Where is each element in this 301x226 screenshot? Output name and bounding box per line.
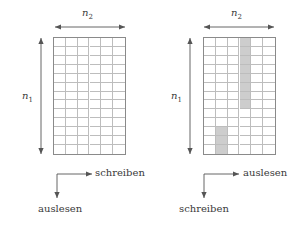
matrix-cell bbox=[204, 100, 216, 109]
matrix-cell bbox=[101, 83, 113, 92]
matrix-cell bbox=[204, 38, 216, 47]
dimension-arrow-n1-right bbox=[185, 33, 195, 159]
matrix-cell bbox=[66, 74, 78, 83]
matrix-cell bbox=[240, 145, 252, 154]
matrix-cell-shaded bbox=[240, 100, 252, 109]
matrix-cell bbox=[228, 127, 240, 136]
matrix-cell bbox=[54, 92, 66, 101]
matrix-cell bbox=[78, 56, 90, 65]
matrix-cell bbox=[204, 56, 216, 65]
matrix-cell bbox=[101, 47, 113, 56]
matrix-cell bbox=[228, 92, 240, 101]
matrix-grid-right bbox=[203, 37, 276, 155]
matrix-cell bbox=[251, 92, 263, 101]
matrix-cell bbox=[263, 145, 275, 154]
matrix-cell-shaded bbox=[240, 83, 252, 92]
matrix-cell bbox=[66, 83, 78, 92]
matrix-cell bbox=[251, 65, 263, 74]
matrix-cell bbox=[216, 47, 228, 56]
matrix-cell bbox=[204, 136, 216, 145]
flow-label-horizontal-right: auslesen bbox=[243, 167, 287, 178]
matrix-cell bbox=[101, 118, 113, 127]
matrix-cell-shaded bbox=[240, 92, 252, 101]
matrix-cell bbox=[263, 38, 275, 47]
matrix-cell bbox=[263, 92, 275, 101]
matrix-cell bbox=[113, 47, 125, 56]
matrix-cell bbox=[101, 136, 113, 145]
matrix-cell bbox=[90, 100, 102, 109]
matrix-cell bbox=[251, 109, 263, 118]
matrix-cell bbox=[78, 83, 90, 92]
matrix-cell bbox=[204, 74, 216, 83]
matrix-cell bbox=[204, 65, 216, 74]
matrix-cell bbox=[204, 92, 216, 101]
matrix-cell bbox=[101, 56, 113, 65]
matrix-cell bbox=[240, 127, 252, 136]
matrix-cell bbox=[90, 92, 102, 101]
matrix-cell bbox=[101, 127, 113, 136]
matrix-cell bbox=[251, 47, 263, 56]
dimension-arrow-n2-right bbox=[199, 22, 279, 32]
matrix-cell bbox=[216, 56, 228, 65]
matrix-cell bbox=[78, 38, 90, 47]
matrix-cell bbox=[54, 136, 66, 145]
matrix-grid-left bbox=[53, 37, 126, 155]
matrix-cell bbox=[263, 118, 275, 127]
matrix-cell bbox=[113, 118, 125, 127]
matrix-cell bbox=[228, 83, 240, 92]
matrix-cell bbox=[228, 38, 240, 47]
matrix-cell-shaded bbox=[240, 56, 252, 65]
matrix-cell bbox=[54, 74, 66, 83]
matrix-cell bbox=[204, 145, 216, 154]
matrix-cell bbox=[101, 65, 113, 74]
matrix-cell bbox=[204, 127, 216, 136]
matrix-cell bbox=[251, 136, 263, 145]
matrix-cell bbox=[228, 136, 240, 145]
matrix-cell bbox=[90, 145, 102, 154]
matrix-cell bbox=[240, 118, 252, 127]
matrix-cell-shaded bbox=[216, 145, 228, 154]
matrix-cell bbox=[54, 38, 66, 47]
matrix-cell bbox=[216, 74, 228, 83]
matrix-cell bbox=[228, 56, 240, 65]
matrix-cell bbox=[251, 56, 263, 65]
matrix-cell bbox=[251, 127, 263, 136]
matrix-cell bbox=[113, 92, 125, 101]
matrix-cell bbox=[66, 127, 78, 136]
matrix-cell bbox=[90, 83, 102, 92]
matrix-cell bbox=[66, 145, 78, 154]
matrix-cell bbox=[90, 56, 102, 65]
matrix-cell bbox=[263, 47, 275, 56]
matrix-cell bbox=[54, 145, 66, 154]
matrix-cell bbox=[113, 145, 125, 154]
dimension-label-n1-left: n1 bbox=[22, 90, 33, 104]
figure-canvas: n2 n1 schreiben auslesen n2 bbox=[0, 0, 301, 226]
matrix-cell bbox=[228, 109, 240, 118]
matrix-cell bbox=[113, 38, 125, 47]
matrix-cell bbox=[216, 65, 228, 74]
matrix-cell bbox=[78, 118, 90, 127]
matrix-cell bbox=[263, 56, 275, 65]
matrix-cell bbox=[66, 65, 78, 74]
dimension-label-n2-left: n2 bbox=[82, 7, 93, 21]
matrix-cell bbox=[54, 83, 66, 92]
matrix-cell bbox=[78, 145, 90, 154]
matrix-cell bbox=[78, 136, 90, 145]
matrix-cell bbox=[66, 92, 78, 101]
matrix-cell bbox=[78, 109, 90, 118]
matrix-cell bbox=[90, 74, 102, 83]
diagram-panel-right: n2 n1 auslesen schreiben bbox=[151, 0, 301, 226]
matrix-cell bbox=[216, 83, 228, 92]
matrix-cell bbox=[78, 65, 90, 74]
matrix-cell bbox=[228, 74, 240, 83]
matrix-cell bbox=[216, 118, 228, 127]
matrix-cell bbox=[78, 127, 90, 136]
matrix-cell bbox=[263, 74, 275, 83]
matrix-cell bbox=[216, 38, 228, 47]
matrix-cell bbox=[78, 47, 90, 56]
matrix-cell bbox=[54, 127, 66, 136]
matrix-cell bbox=[251, 38, 263, 47]
flow-label-vertical-left: auslesen bbox=[38, 203, 82, 214]
dimension-arrow-n2-left bbox=[50, 22, 130, 32]
matrix-cell bbox=[228, 145, 240, 154]
